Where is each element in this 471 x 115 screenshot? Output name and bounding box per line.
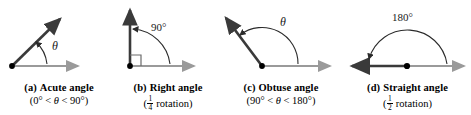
fraction-half: 12 [387, 95, 393, 111]
rotation-arc [369, 30, 447, 64]
right-angle-caption: (b)Right angle (14 rotation) [118, 82, 218, 111]
straight-angle-diagram: 180° [344, 2, 471, 80]
caption-subtitle: (0° < θ < 90°) [0, 95, 118, 106]
caption-sub-suffix: rotation) [154, 98, 193, 109]
obtuse-angle-diagram: θ [218, 2, 344, 80]
rotation-arc [36, 42, 47, 64]
fraction-denominator: 4 [147, 103, 153, 112]
caption-tag: (c) [244, 82, 256, 93]
caption-title-text: Obtuse angle [259, 82, 319, 93]
caption-sub-suffix: rotation) [393, 98, 432, 109]
caption-sub-prefix: ( [383, 98, 387, 109]
caption-sub-suffix: < 180°) [281, 95, 316, 106]
caption-title-text: Acute angle [40, 82, 94, 93]
caption-tag: (b) [134, 82, 147, 93]
caption-subtitle: (14 rotation) [118, 95, 218, 111]
caption-title: (b)Right angle [118, 82, 218, 93]
caption-tag: (a) [24, 82, 37, 93]
caption-tag: (d) [367, 82, 380, 93]
fraction-numerator: 1 [147, 95, 153, 103]
right-angle-diagram: 90° [118, 2, 218, 80]
vertex-point [259, 63, 265, 69]
caption-sub-suffix: < 90°) [59, 95, 88, 106]
fraction-quarter: 14 [147, 95, 153, 111]
rotation-arc [240, 27, 298, 64]
terminal-ray [226, 18, 262, 66]
caption-sub-prefix: ( [143, 98, 147, 109]
vertex-point [9, 63, 15, 69]
angle-label: 180° [392, 11, 413, 23]
straight-angle-caption: (d)Straight angle (12 rotation) [344, 82, 471, 111]
caption-title: (c)Obtuse angle [218, 82, 344, 93]
vertex-point [127, 63, 133, 69]
panel-acute-angle: θ (a)Acute angle (0° < θ < 90°) [0, 0, 118, 115]
acute-angle-caption: (a)Acute angle (0° < θ < 90°) [0, 82, 118, 106]
angle-label: θ [52, 39, 58, 53]
caption-sub-prefix: (90° < [246, 95, 275, 106]
acute-angle-diagram: θ [0, 2, 118, 80]
vertex-point [404, 63, 410, 69]
caption-title: (d)Straight angle [344, 82, 471, 93]
caption-sub-prefix: (0° < [30, 95, 54, 106]
caption-title-text: Straight angle [383, 82, 448, 93]
caption-title: (a)Acute angle [0, 82, 118, 93]
panel-straight-angle: 180° (d)Straight angle (12 rotation) [344, 0, 471, 115]
fraction-denominator: 2 [387, 103, 393, 112]
panel-right-angle: 90° (b)Right angle (14 rotation) [118, 0, 218, 115]
rotation-arc [133, 29, 170, 64]
angle-label: θ [280, 15, 286, 29]
panel-obtuse-angle: θ (c)Obtuse angle (90° < θ < 180°) [218, 0, 344, 115]
obtuse-angle-caption: (c)Obtuse angle (90° < θ < 180°) [218, 82, 344, 106]
caption-title-text: Right angle [150, 82, 203, 93]
angle-types-figure: θ (a)Acute angle (0° < θ < 90°) [0, 0, 471, 115]
caption-subtitle: (90° < θ < 180°) [218, 95, 344, 106]
caption-subtitle: (12 rotation) [344, 95, 471, 111]
angle-label: 90° [151, 21, 166, 33]
fraction-numerator: 1 [387, 95, 393, 103]
